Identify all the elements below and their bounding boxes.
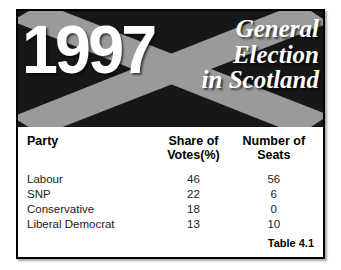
scotland-saltire-flag-icon — [18, 11, 323, 127]
cell-party: SNP — [27, 187, 153, 202]
table-caption: Table 4.1 — [268, 237, 314, 249]
cell-seats: 6 — [234, 187, 314, 202]
cell-seats: 10 — [234, 217, 314, 232]
cell-votes: 22 — [153, 187, 233, 202]
cell-party: Conservative — [27, 202, 153, 217]
table-row: SNP 22 6 — [27, 187, 314, 202]
table-row: Labour 46 56 — [27, 172, 314, 187]
cell-votes: 46 — [153, 172, 233, 187]
column-header-seats-line1: Number of — [243, 134, 306, 148]
column-header-share-of-votes: Share of Votes(%) — [153, 134, 233, 172]
election-table-card: 1997 General Election in Scotland Party … — [16, 9, 325, 259]
table-row: Conservative 18 0 — [27, 202, 314, 217]
results-table-area: Party Share of Votes(%) Number of Seats … — [18, 127, 323, 257]
table-header-row: Party Share of Votes(%) Number of Seats — [27, 134, 314, 172]
cell-votes: 13 — [153, 217, 233, 232]
cell-party: Liberal Democrat — [27, 217, 153, 232]
cell-party: Labour — [27, 172, 153, 187]
column-header-seats-line2: Seats — [234, 148, 314, 162]
column-header-number-of-seats: Number of Seats — [234, 134, 314, 172]
table-row: Liberal Democrat 13 10 — [27, 217, 314, 232]
banner-header: 1997 General Election in Scotland — [18, 11, 323, 127]
cell-votes: 18 — [153, 202, 233, 217]
column-header-votes-line2: Votes(%) — [153, 148, 233, 162]
cell-seats: 56 — [234, 172, 314, 187]
column-header-party-line1: Party — [27, 134, 58, 148]
election-results-table: Party Share of Votes(%) Number of Seats … — [27, 134, 314, 232]
column-header-votes-line1: Share of — [168, 134, 218, 148]
column-header-party: Party — [27, 134, 153, 172]
cell-seats: 0 — [234, 202, 314, 217]
